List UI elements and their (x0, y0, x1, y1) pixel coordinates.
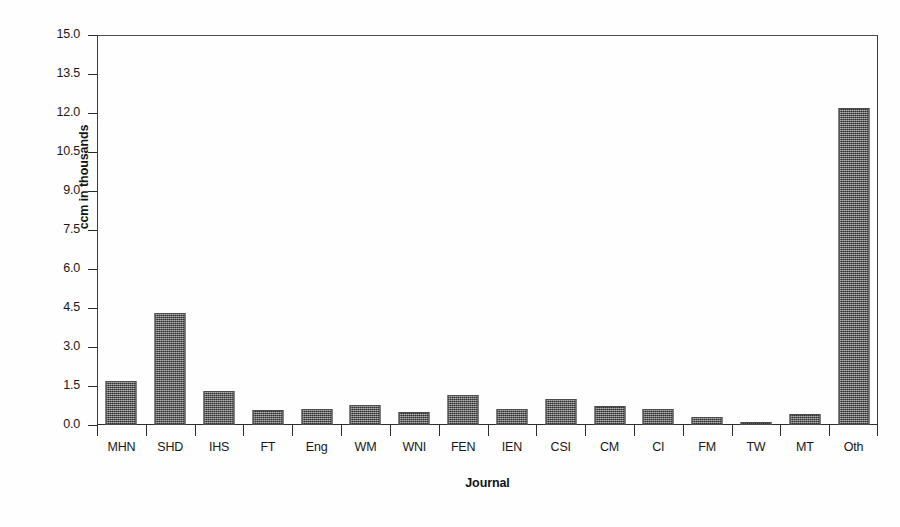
x-tick-label-wni: WNI (390, 440, 439, 454)
bar-mt (789, 414, 820, 425)
bar-band (488, 35, 537, 425)
bar-fen (448, 395, 479, 425)
x-tick-mark (877, 425, 878, 436)
bar-eng (301, 409, 332, 425)
bar-csi (545, 399, 576, 425)
y-tick-label: 1.5 (63, 378, 80, 392)
bar-band (683, 35, 732, 425)
x-tick-label-mhn: MHN (97, 440, 146, 454)
y-tick-mark (88, 35, 97, 36)
bar-oth (838, 108, 869, 425)
bar-ihs (204, 391, 235, 425)
bar-ci (643, 409, 674, 425)
y-tick-label: 6.0 (63, 261, 80, 275)
x-tick-label-cm: CM (585, 440, 634, 454)
bar-band (732, 35, 781, 425)
y-tick-mark (88, 269, 97, 270)
bar-ien (496, 409, 527, 425)
y-tick-mark (88, 74, 97, 75)
bar-band (292, 35, 341, 425)
y-tick-mark (88, 230, 97, 231)
x-tick-mark (488, 425, 489, 436)
y-tick-mark (88, 347, 97, 348)
x-tick-mark (683, 425, 684, 436)
x-tick-label-eng: Eng (292, 440, 341, 454)
x-tick-mark (292, 425, 293, 436)
y-tick-label: 4.5 (63, 300, 80, 314)
y-tick-label: 10.5 (56, 144, 80, 158)
y-tick-mark (88, 191, 97, 192)
y-tick-label: 7.5 (63, 222, 80, 236)
x-tick-mark (536, 425, 537, 436)
x-tick-mark (634, 425, 635, 436)
bar-band (780, 35, 829, 425)
bar-wm (350, 405, 381, 425)
x-axis-ticks (97, 425, 878, 437)
y-tick-mark (88, 113, 97, 114)
x-tick-mark (243, 425, 244, 436)
y-tick-mark (88, 152, 97, 153)
x-tick-label-mt: MT (780, 440, 829, 454)
bar-band (97, 35, 146, 425)
x-tick-label-ien: IEN (488, 440, 537, 454)
x-tick-label-fen: FEN (439, 440, 488, 454)
bar-band (146, 35, 195, 425)
x-tick-label-shd: SHD (146, 440, 195, 454)
bar-series (97, 35, 878, 425)
x-tick-mark (146, 425, 147, 436)
x-tick-label-fm: FM (683, 440, 732, 454)
x-tick-label-ci: CI (634, 440, 683, 454)
bar-band (536, 35, 585, 425)
x-tick-mark (585, 425, 586, 436)
y-tick-mark (88, 308, 97, 309)
x-tick-label-tw: TW (732, 440, 781, 454)
bar-band (341, 35, 390, 425)
bar-band (439, 35, 488, 425)
bar-cm (594, 406, 625, 426)
bar-band (634, 35, 683, 425)
y-tick-label: 3.0 (63, 339, 80, 353)
y-tick-label: 13.5 (56, 66, 80, 80)
bar-shd (155, 313, 186, 425)
x-tick-mark (195, 425, 196, 436)
bar-band (390, 35, 439, 425)
y-tick-label: 15.0 (56, 27, 80, 41)
bar-band (585, 35, 634, 425)
x-tick-mark (780, 425, 781, 436)
x-tick-label-wm: WM (341, 440, 390, 454)
y-tick-mark (88, 386, 97, 387)
x-tick-mark (341, 425, 342, 436)
x-tick-label-ihs: IHS (195, 440, 244, 454)
x-tick-mark (439, 425, 440, 436)
y-tick-label: 12.0 (56, 105, 80, 119)
x-tick-mark (390, 425, 391, 436)
x-tick-mark (829, 425, 830, 436)
bar-band (829, 35, 878, 425)
bar-chart-figure: ccm in thousands 15.013.512.010.59.07.56… (0, 0, 900, 527)
x-tick-label-oth: Oth (829, 440, 878, 454)
x-tick-label-ft: FT (243, 440, 292, 454)
x-axis-tick-labels: MHNSHDIHSFTEngWMWNIFENIENCSICMCIFMTWMTOt… (97, 440, 878, 460)
x-tick-label-csi: CSI (536, 440, 585, 454)
bar-wni (399, 412, 430, 425)
y-tick-label: 0.0 (63, 417, 80, 431)
bar-mhn (106, 381, 137, 425)
bar-fm (692, 417, 723, 425)
bar-band (243, 35, 292, 425)
x-tick-mark (732, 425, 733, 436)
x-tick-mark (97, 425, 98, 436)
x-axis-title: Journal (97, 476, 878, 490)
bar-band (195, 35, 244, 425)
y-tick-mark (88, 425, 97, 426)
y-tick-label: 9.0 (63, 183, 80, 197)
bar-ft (252, 410, 283, 425)
